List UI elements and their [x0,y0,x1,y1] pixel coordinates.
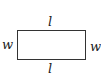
label-bottom-length: l [48,62,52,75]
rectangle [17,30,86,60]
label-right-width: w [90,40,101,53]
label-left-width: w [2,38,13,51]
label-top-length: l [48,15,52,28]
